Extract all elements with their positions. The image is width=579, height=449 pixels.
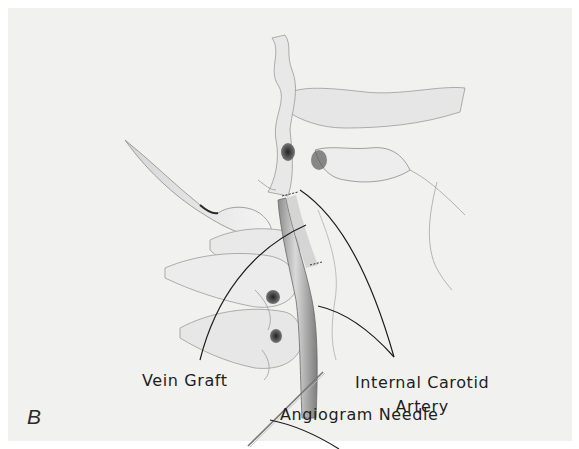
- cervical-vertebrae: [165, 229, 302, 380]
- figure-frame: B Vein Graft Internal Carotid Artery Ang…: [0, 0, 579, 449]
- leader-ica-lower: [318, 306, 394, 357]
- label-angiogram-needle: Angiogram Needle: [280, 405, 438, 424]
- anatomical-illustration: [0, 0, 579, 449]
- mandible: [125, 140, 276, 237]
- label-ica-line1: Internal Carotid: [355, 371, 489, 395]
- leader-needle: [270, 420, 339, 449]
- panel-letter: B: [27, 405, 41, 429]
- label-vein-graft: Vein Graft: [142, 371, 228, 390]
